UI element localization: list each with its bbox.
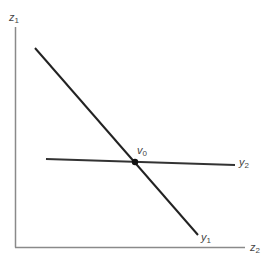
- horizontal-axis-label: z2: [250, 242, 260, 256]
- label-sub: 0: [143, 149, 147, 158]
- intersection-label: v0: [137, 145, 147, 159]
- y1-line-label: y1: [201, 232, 211, 246]
- intersection-point: [132, 159, 138, 165]
- diagram-canvas: [0, 0, 269, 265]
- label-sub: 1: [15, 16, 19, 25]
- y1-line: [35, 48, 198, 235]
- y2-line-label: y2: [239, 157, 249, 171]
- label-sub: 2: [245, 161, 249, 170]
- y2-line: [46, 159, 235, 165]
- label-sub: 2: [256, 246, 260, 255]
- label-sub: 1: [207, 236, 211, 245]
- vertical-axis-label: z1: [9, 12, 19, 26]
